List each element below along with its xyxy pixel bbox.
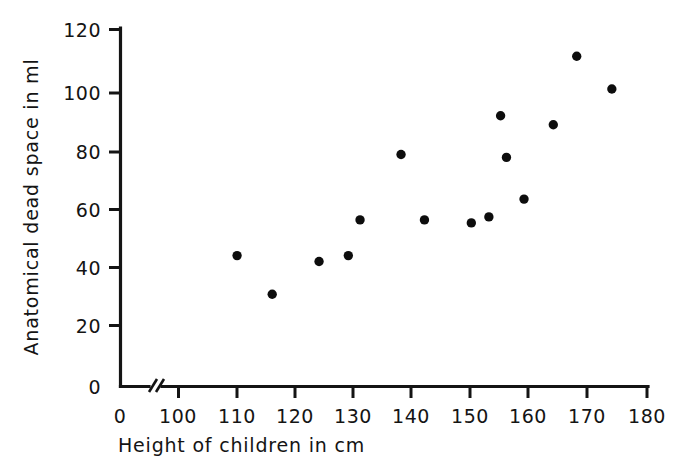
x-tick-label-150: 150 bbox=[451, 405, 489, 427]
y-tick-label-60: 60 bbox=[76, 199, 101, 221]
x-tick-label-180: 180 bbox=[628, 405, 666, 427]
x-tick-label-130: 130 bbox=[334, 405, 372, 427]
y-tick-label-80: 80 bbox=[76, 141, 101, 163]
x-tick-label-100: 100 bbox=[159, 405, 197, 427]
data-point bbox=[496, 111, 505, 120]
y-tick-label-120: 120 bbox=[63, 19, 101, 41]
y-tick-label-0: 0 bbox=[88, 376, 101, 398]
x-tick-label-170: 170 bbox=[568, 405, 606, 427]
data-point bbox=[607, 84, 616, 93]
data-point bbox=[232, 251, 241, 260]
x-tick-label-0: 0 bbox=[114, 405, 127, 427]
x-tick-label-160: 160 bbox=[509, 405, 547, 427]
data-point bbox=[314, 257, 323, 266]
data-point bbox=[519, 194, 528, 203]
data-point bbox=[572, 52, 581, 61]
x-tick-label-140: 140 bbox=[392, 405, 430, 427]
data-point bbox=[420, 215, 429, 224]
data-point bbox=[549, 120, 558, 129]
y-axis-title: Anatomical dead space in ml bbox=[20, 59, 42, 356]
data-point bbox=[467, 218, 476, 227]
x-tick-label-110: 110 bbox=[218, 405, 256, 427]
data-point bbox=[344, 251, 353, 260]
y-tick-label-20: 20 bbox=[76, 315, 101, 337]
data-point bbox=[355, 215, 364, 224]
figure-background bbox=[0, 0, 685, 466]
data-point bbox=[484, 212, 493, 221]
x-axis-title: Height of children in cm bbox=[118, 434, 365, 456]
scatter-plot-figure: 120 100 80 60 40 20 0 Anatomical dead sp… bbox=[0, 0, 685, 466]
y-tick-label-40: 40 bbox=[76, 257, 101, 279]
data-point bbox=[268, 290, 277, 299]
data-point bbox=[502, 153, 511, 162]
data-point bbox=[396, 150, 405, 159]
y-tick-label-100: 100 bbox=[63, 82, 101, 104]
x-tick-label-120: 120 bbox=[276, 405, 314, 427]
